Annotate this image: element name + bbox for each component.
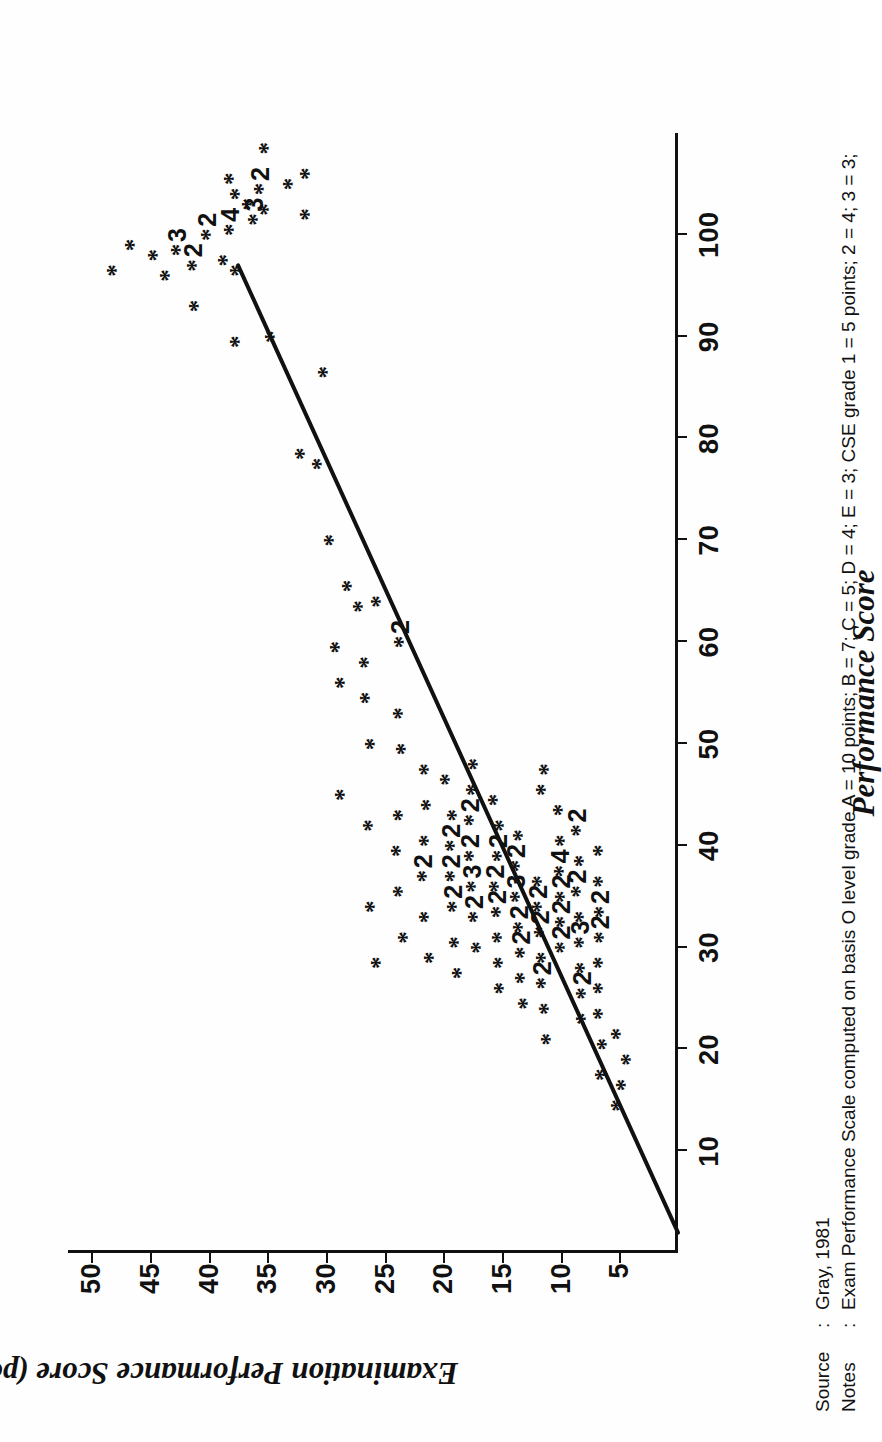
data-point-marker: *	[527, 875, 552, 888]
y-axis-title: Examination Performance Score (points pe…	[38, 1355, 458, 1391]
data-point-marker: *	[548, 804, 573, 817]
x-tick-mark	[677, 742, 687, 744]
data-point-marker: *	[551, 834, 576, 847]
x-tick-label: 10	[694, 1136, 725, 1167]
y-tick-mark	[619, 1252, 621, 1263]
notes-colon: :	[838, 1310, 860, 1328]
x-tick-label: 100	[694, 212, 725, 259]
data-point-marker: *	[549, 865, 574, 878]
data-point-marker: *	[389, 885, 414, 898]
x-tick-mark	[677, 538, 687, 540]
data-point-marker: *	[102, 264, 127, 277]
data-point-marker: *	[616, 1053, 641, 1066]
data-point-marker: *	[590, 1069, 615, 1082]
x-tick-label: 70	[694, 525, 725, 556]
data-point-marker: *	[488, 957, 513, 970]
data-point-marker: *	[572, 1013, 597, 1026]
source-label: Source	[812, 1328, 834, 1412]
data-point-marker: *	[196, 229, 221, 242]
data-point-multiplicity-label: 2	[388, 620, 413, 634]
y-tick-mark	[326, 1252, 328, 1263]
data-point-multiplicity-label: 2	[194, 213, 219, 227]
x-tick-label: 40	[694, 830, 725, 861]
x-tick-label: 60	[694, 627, 725, 658]
data-point-multiplicity-label: 2	[438, 854, 463, 868]
x-tick-mark	[677, 436, 687, 438]
data-point-marker: *	[261, 330, 286, 343]
y-tick-mark	[150, 1252, 152, 1263]
figure-inner: Performance Score Examination Performanc…	[50, 71, 790, 1371]
data-point-marker: *	[490, 819, 515, 832]
data-point-multiplicity-label: 3	[165, 228, 190, 242]
data-point-multiplicity-label: 2	[441, 885, 466, 899]
plot-area: 102030405060708090100 510152025303540455…	[68, 133, 678, 1253]
data-point-marker: *	[226, 188, 251, 201]
data-point-marker: *	[414, 834, 439, 847]
x-tick-mark	[677, 844, 687, 846]
data-point-marker: *	[155, 269, 180, 282]
data-point-marker: *	[182, 259, 207, 272]
data-point-marker: *	[443, 809, 468, 822]
y-tick-mark	[267, 1252, 269, 1263]
data-point-multiplicity-label: 4	[547, 849, 572, 863]
data-point-marker: *	[220, 173, 245, 186]
data-point-marker: *	[290, 447, 315, 460]
data-point-marker: *	[532, 783, 557, 796]
x-tick-label: 80	[694, 423, 725, 454]
data-point-marker: *	[330, 677, 355, 690]
data-point-marker: *	[296, 167, 321, 180]
data-point-marker: *	[358, 819, 383, 832]
data-point-marker: *	[570, 962, 595, 975]
data-point-marker: *	[167, 244, 192, 257]
data-point-marker: *	[366, 957, 391, 970]
data-point-multiplicity-label: 2	[485, 834, 510, 848]
data-point-multiplicity-label: 2	[410, 854, 435, 868]
data-point-marker: *	[536, 1033, 561, 1046]
data-point-marker: *	[414, 911, 439, 924]
data-point-marker: *	[607, 1099, 632, 1112]
y-tick-label: 25	[369, 1263, 400, 1307]
y-tick-mark	[385, 1252, 387, 1263]
data-point-marker: *	[412, 870, 437, 883]
y-tick-mark	[209, 1252, 211, 1263]
data-point-multiplicity-label: 2	[483, 865, 508, 879]
data-point-marker: *	[391, 743, 416, 756]
y-tick-label: 30	[311, 1263, 342, 1307]
data-point-marker: *	[443, 901, 468, 914]
rotated-figure-container: Performance Score Examination Performanc…	[50, 71, 790, 1371]
data-point-marker: *	[356, 692, 381, 705]
y-tick-mark	[443, 1252, 445, 1263]
y-tick-mark	[561, 1252, 563, 1263]
data-point-marker: *	[461, 783, 486, 796]
data-point-marker: *	[366, 595, 391, 608]
data-point-marker: *	[486, 906, 511, 919]
data-point-marker: *	[572, 987, 597, 1000]
y-tick-label: 15	[487, 1263, 518, 1307]
x-tick-label: 50	[694, 728, 725, 759]
data-point-marker: *	[185, 300, 210, 313]
data-point-marker: *	[513, 997, 538, 1010]
data-point-marker: *	[447, 967, 472, 980]
notes-value: Exam Performance Scale computed on basis…	[838, 153, 859, 1310]
data-point-marker: *	[325, 641, 350, 654]
data-point-marker: *	[143, 249, 168, 262]
notes-label: Notes	[838, 1328, 860, 1412]
x-tick-mark	[677, 233, 687, 235]
data-point-marker: *	[386, 845, 411, 858]
data-point-marker: *	[593, 1038, 618, 1051]
x-tick-mark	[677, 1047, 687, 1049]
data-point-marker: *	[319, 534, 344, 547]
x-tick-label: 90	[694, 321, 725, 352]
x-tick-mark	[677, 335, 687, 337]
data-point-marker: *	[355, 656, 380, 669]
y-tick-label: 5	[604, 1263, 635, 1307]
y-tick-label: 50	[76, 1263, 107, 1307]
data-point-marker: *	[361, 901, 386, 914]
data-point-marker: *	[249, 183, 274, 196]
y-tick-mark	[502, 1252, 504, 1263]
data-point-marker: *	[296, 208, 321, 221]
data-point-marker: *	[120, 239, 145, 252]
data-point-marker: *	[464, 758, 489, 771]
data-point-marker: *	[226, 335, 251, 348]
